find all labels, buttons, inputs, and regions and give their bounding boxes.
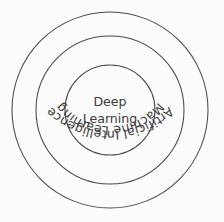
diagram-canvas: Artificial Intelligence Machine Learning…: [0, 0, 224, 222]
inner-circle-label-line-1: Deep: [93, 94, 126, 109]
concentric-circles-diagram: Artificial Intelligence Machine Learning…: [0, 0, 224, 222]
outer-circle-artificial-intelligence: [12, 12, 208, 208]
inner-circle-label-line-2: Learning: [83, 111, 138, 126]
